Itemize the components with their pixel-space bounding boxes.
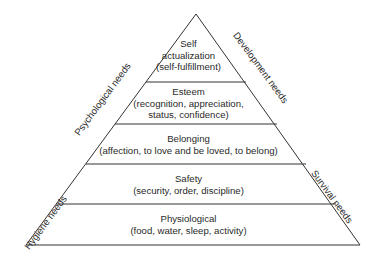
level-title: Esteem [0,86,377,98]
level-description-cont: status, confidence) [0,109,377,121]
level-title: Belonging [0,133,377,145]
level-title: Self [0,38,377,50]
level-description: (affection, to love and be loved, to bel… [0,145,377,157]
level-description: (self-fulfillment) [0,61,377,73]
level-description: (recognition, appreciation, [0,98,377,110]
level-esteem: Esteem (recognition, appreciation, statu… [0,86,377,121]
level-self-actualization: Self actualization (self-fulfillment) [0,38,377,73]
level-description: (food, water, sleep, activity) [0,225,377,237]
level-subtitle: actualization [0,50,377,62]
level-belonging: Belonging (affection, to love and be lov… [0,133,377,156]
